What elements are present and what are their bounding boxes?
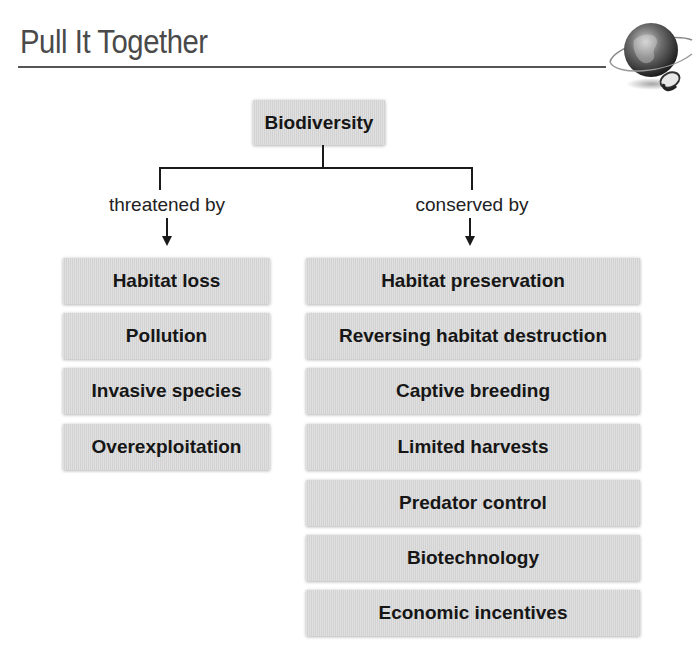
conservation-item: Biotechnology (306, 535, 640, 581)
conservation-item: Limited harvests (306, 424, 640, 470)
arrow-down-icon (464, 218, 476, 248)
threat-item: Pollution (63, 313, 270, 359)
threat-item: Overexploitation (63, 424, 270, 470)
conservation-item: Habitat preservation (306, 258, 640, 304)
branch-label-threatened: threatened by (109, 194, 225, 216)
arrow-down-icon (161, 218, 173, 248)
conservation-item: Predator control (306, 480, 640, 526)
conservation-item: Captive breeding (306, 368, 640, 414)
threat-item: Habitat loss (63, 258, 270, 304)
branch-label-conserved: conserved by (415, 194, 528, 216)
connector-left-drop (159, 167, 161, 190)
title-underline (18, 66, 606, 68)
threat-item: Invasive species (63, 368, 270, 414)
connector-horizontal (159, 167, 473, 169)
conservation-item: Reversing habitat destruction (306, 313, 640, 359)
root-node-biodiversity: Biodiversity (253, 100, 385, 145)
connector-right-drop (471, 167, 473, 190)
conservation-item: Economic incentives (306, 590, 640, 636)
page-title: Pull It Together (20, 18, 208, 64)
connector-root-down (322, 145, 324, 169)
globe-with-mouse-icon (604, 14, 693, 94)
